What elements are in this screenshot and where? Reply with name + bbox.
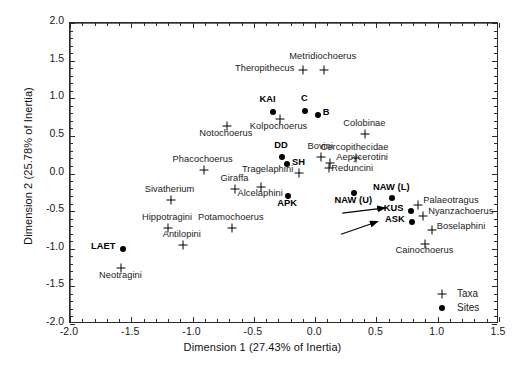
x-tick: [462, 319, 463, 322]
y-tick: [70, 189, 73, 190]
x-tick: [70, 317, 71, 322]
y-tick: [70, 174, 75, 175]
site-label-apk: APK: [277, 199, 297, 208]
y-tick: [70, 106, 73, 107]
y-tick: [70, 256, 73, 257]
site-label-dd: DD: [274, 141, 288, 150]
y-tick: [70, 294, 73, 295]
x-tick: [229, 23, 230, 26]
x-tick: [438, 23, 439, 28]
taxa-marker-nyanzachoerus: [419, 211, 428, 220]
x-tick: [352, 319, 353, 322]
y-tick: [70, 279, 73, 280]
x-tick: [180, 23, 181, 26]
x-tick: [327, 23, 328, 26]
x-tick: [462, 23, 463, 26]
x-tick: [180, 319, 181, 322]
y-tick: [70, 241, 73, 242]
x-tick: [82, 23, 83, 26]
y-tick: [70, 31, 73, 32]
x-tick: [499, 317, 500, 322]
y-tick: [492, 98, 497, 99]
x-tick: [131, 23, 132, 28]
y-tick: [70, 76, 73, 77]
x-tick: [254, 317, 255, 322]
x-zero-axis-line: [70, 23, 497, 24]
x-tick: [474, 23, 475, 26]
taxa-marker-colobinae: [361, 130, 370, 139]
y-tick: [494, 166, 497, 167]
x-tick: [303, 319, 304, 322]
y-tick: [70, 23, 75, 24]
x-tick: [401, 23, 402, 26]
site-marker-kai: [270, 109, 276, 115]
y-tick: [70, 158, 73, 159]
plus-cross-icon: [438, 290, 447, 299]
y-tick: [70, 211, 75, 212]
y-tick: [70, 219, 73, 220]
y-tick: [494, 106, 497, 107]
taxa-label-metridiochoerus: Metridiochoerus: [289, 52, 356, 61]
x-tick: [107, 319, 108, 322]
taxa-marker-metridiochoerus: [319, 65, 328, 74]
taxa-marker-palaeotragus: [414, 201, 423, 210]
x-tick: [487, 319, 488, 322]
y-tick: [494, 241, 497, 242]
legend-item-taxa: Taxa: [440, 287, 479, 301]
taxa-marker-potamochoerus: [227, 223, 236, 232]
site-marker-laet: [120, 246, 126, 252]
y-tick: [70, 301, 73, 302]
x-tick: [438, 317, 439, 322]
x-tick: [107, 23, 108, 26]
site-label-ask: ASK: [385, 215, 405, 224]
x-tick: [278, 23, 279, 26]
taxa-label-theropithecus: Theropithecus: [235, 64, 295, 73]
taxa-marker-tragelaphini: [295, 168, 304, 177]
y-tick: [494, 53, 497, 54]
y-tick: [70, 136, 75, 137]
y-tick: [492, 23, 497, 24]
site-label-kai: KAI: [259, 95, 275, 104]
taxa-label-antilopini: Antilopini: [163, 230, 201, 239]
taxa-label-cainochoerus: Cainochoerus: [395, 246, 453, 255]
site-label-naw-l: NAW (L): [373, 183, 410, 192]
y-tick: [492, 174, 497, 175]
y-tick: [494, 143, 497, 144]
x-tick: [242, 319, 243, 322]
site-marker-naw-l: [389, 195, 395, 201]
taxa-label-alcelaphini: Alcelaphini: [237, 189, 283, 198]
taxa-marker-sivatherium: [166, 195, 175, 204]
x-tick: [131, 317, 132, 322]
y-tick: [70, 166, 73, 167]
x-tick: [303, 23, 304, 26]
y-tick: [70, 196, 73, 197]
x-tick: [205, 319, 206, 322]
y-tick: [70, 46, 73, 47]
site-marker-dd: [279, 154, 285, 160]
y-tick: [494, 68, 497, 69]
y-tick: [494, 196, 497, 197]
y-tick: [494, 226, 497, 227]
legend-label-sites: Sites: [457, 302, 479, 313]
site-marker-c: [302, 108, 308, 114]
y-tick: [494, 219, 497, 220]
y-tick: [70, 181, 73, 182]
y-tick: [70, 226, 73, 227]
x-tick: [193, 23, 194, 28]
x-tick: [450, 23, 451, 26]
y-tick: [70, 271, 73, 272]
x-tick: [144, 319, 145, 322]
y-tick: [70, 249, 75, 250]
x-tick: [229, 319, 230, 322]
y-tick: [494, 279, 497, 280]
y-tick: [494, 158, 497, 159]
taxa-label-kolpochoerus: Kolpochoerus: [250, 122, 307, 131]
y-axis-title: Dimension 2 (25.78% of Inertia): [22, 16, 34, 316]
x-tick-label: 0.0: [307, 325, 322, 337]
x-tick: [474, 319, 475, 322]
site-label-naw-u: NAW (U): [335, 196, 373, 205]
x-tick: [278, 319, 279, 322]
y-tick: [494, 121, 497, 122]
y-tick: [494, 128, 497, 129]
y-tick: [492, 61, 497, 62]
